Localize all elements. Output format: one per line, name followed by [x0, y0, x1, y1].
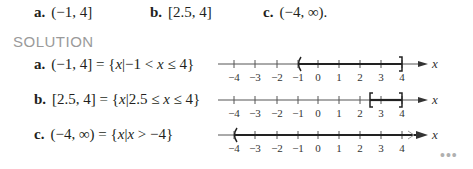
- tick-label: 0: [315, 142, 321, 154]
- problem-item-a: a.(−1, 4]: [34, 4, 92, 21]
- tick-label: 1: [336, 107, 342, 119]
- tick-label: 3: [378, 107, 384, 119]
- tick-label: 2: [357, 142, 363, 154]
- axis-label: x: [431, 127, 438, 142]
- solution-row-a: a.(−1, 4] = {x|−1 < x ≤ 4}: [34, 56, 194, 73]
- item-label: c.: [263, 4, 273, 20]
- interval: [2.5, 4]: [168, 4, 212, 20]
- solution-row-c: c.(−4, ∞) = {x|x > −4}: [34, 126, 173, 143]
- axis-label: x: [431, 92, 438, 107]
- item-label: a.: [34, 4, 45, 20]
- axis-label: x: [431, 56, 438, 71]
- tick-label: 4: [399, 107, 405, 119]
- interval: [2.5, 4]: [52, 91, 96, 107]
- tick-label: 2: [357, 71, 363, 83]
- row-label: c.: [34, 126, 44, 142]
- tick-label: −4: [228, 71, 240, 83]
- condition-pre: 2.5 ≤: [129, 91, 163, 107]
- tick-label: −1: [292, 142, 304, 154]
- equals-sign: =: [96, 56, 104, 72]
- interval: (−1, 4]: [51, 56, 92, 72]
- interval: (−4, ∞).: [279, 4, 327, 20]
- equals-sign: =: [100, 91, 108, 107]
- tick-label: −1: [292, 71, 304, 83]
- number-line-b: −4 −3 −2 −1 0 1 2 3 4 x: [210, 86, 446, 120]
- set-brace-open: {: [112, 91, 119, 107]
- tick-label: −3: [249, 107, 261, 119]
- tick-label: 3: [378, 71, 384, 83]
- set-brace-close: }: [166, 126, 173, 142]
- solution-row-b: b.[2.5, 4] = {x|2.5 ≤ x ≤ 4}: [34, 91, 200, 108]
- interval: (−4, ∞): [50, 126, 94, 142]
- tick-label: 4: [399, 142, 405, 154]
- tick-label: 0: [315, 107, 321, 119]
- number-line-c: −4 −3 −2 −1 0 1 2 3 4 x: [210, 121, 446, 155]
- set-variable: x: [119, 91, 126, 107]
- set-brace-close: }: [187, 56, 194, 72]
- set-brace-close: }: [193, 91, 200, 107]
- tick-label: 1: [336, 142, 342, 154]
- tick-label: −2: [271, 71, 283, 83]
- tick-label: −2: [271, 107, 283, 119]
- set-brace-open: {: [111, 126, 118, 142]
- tick-label: −3: [249, 71, 261, 83]
- condition-var: x: [157, 56, 164, 72]
- condition-post: ≤ 4: [170, 91, 193, 107]
- tick-label: −3: [249, 142, 261, 154]
- tick-label: −1: [292, 107, 304, 119]
- item-label: b.: [150, 4, 162, 20]
- number-line-a: −4 −3 −2 −1 0 1 2 3 4 x: [210, 50, 446, 84]
- tick-label: 3: [378, 142, 384, 154]
- interval: (−1, 4]: [51, 4, 92, 20]
- tick-label: −2: [271, 142, 283, 154]
- row-label: a.: [34, 56, 45, 72]
- tick-label: 2: [357, 107, 363, 119]
- tick-label: −4: [228, 107, 240, 119]
- problem-item-b: b.[2.5, 4]: [150, 4, 212, 21]
- tick-label: 0: [315, 71, 321, 83]
- condition-var: x: [163, 91, 170, 107]
- condition-post: ≤ 4: [164, 56, 187, 72]
- tick-label: 1: [336, 71, 342, 83]
- solution-heading: SOLUTION: [13, 33, 94, 50]
- condition-pre: −1 <: [125, 56, 157, 72]
- row-label: b.: [34, 91, 46, 107]
- equals-sign: =: [98, 126, 106, 142]
- tick-label: 4: [399, 71, 405, 83]
- more-options-icon[interactable]: •••: [440, 147, 458, 163]
- tick-label: −4: [228, 142, 240, 154]
- problem-item-c: c.(−4, ∞).: [263, 4, 327, 21]
- condition-post: > −4: [134, 126, 166, 142]
